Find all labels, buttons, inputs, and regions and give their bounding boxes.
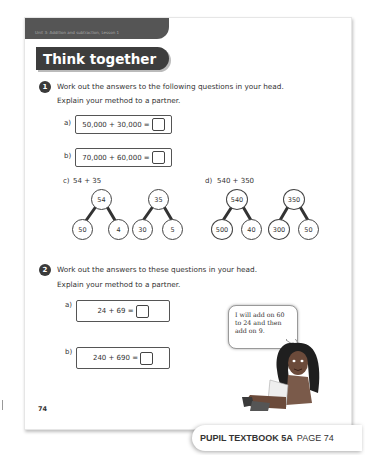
part-whole-part: 300 — [268, 219, 290, 240]
part-whole-part: 50 — [72, 219, 93, 240]
footer-book-title: PUPIL TEXTBOOK 5A — [200, 433, 293, 443]
speech-bubble-text: I will add on 60 to 24 and then add on 9… — [235, 311, 285, 336]
footer-page-reference: PUPIL TEXTBOOK 5A PAGE 74 — [192, 425, 362, 451]
question-2-number-text: 2 — [43, 266, 48, 274]
page-number: 74 — [38, 405, 47, 413]
question-2-instruction-2: Explain your method to a partner. — [57, 280, 180, 289]
q2-part-b-equation-box: 240 + 690 = — [76, 347, 170, 369]
part-whole-whole: 350 — [283, 189, 305, 210]
part-whole-whole: 54 — [91, 189, 112, 210]
part-whole-part: 30 — [132, 219, 153, 240]
question-2-instruction: Work out the answers to these questions … — [57, 265, 257, 274]
q2-part-b-equation: 240 + 690 = — [93, 354, 138, 362]
part-whole-part: 5 — [162, 219, 183, 240]
part-whole-whole: 540 — [226, 189, 248, 210]
part-whole-whole: 35 — [148, 189, 169, 210]
girl-character-illustration — [240, 335, 350, 420]
part-whole-part: 50 — [298, 219, 319, 240]
q2-part-a-answer-box[interactable] — [136, 305, 149, 318]
q2-part-b-label: b) — [65, 348, 72, 356]
part-whole-part: 4 — [108, 219, 129, 240]
q2-part-a-equation: 24 + 69 = — [97, 307, 133, 315]
part-whole-part: 40 — [241, 219, 262, 240]
question-2-number: 2 — [39, 264, 51, 276]
q2-part-b-answer-box[interactable] — [140, 352, 153, 365]
q2-part-a-label: a) — [65, 301, 72, 309]
q2-part-a-equation-box: 24 + 69 = — [76, 300, 170, 322]
footer-page-label: PAGE 74 — [297, 433, 334, 443]
part-whole-part: 500 — [211, 219, 233, 240]
